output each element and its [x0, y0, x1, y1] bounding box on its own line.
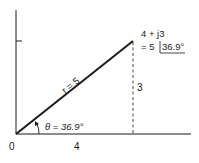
polar-form-angle: 36.9° [162, 41, 184, 52]
origin-label: 0 [9, 141, 15, 152]
polar-form-prefix: = 5 [141, 41, 154, 52]
angle-label: θ = 36.9° [45, 121, 83, 132]
magnitude-label: r = 5 [59, 75, 81, 96]
angle-arrow-icon [35, 121, 39, 126]
angle-arc [37, 124, 39, 134]
imag-part-label: 3 [137, 82, 143, 93]
phasor-diagram: 0 4 3 r = 5 θ = 36.9° 4 + j3 = 5 36.9° [0, 0, 199, 163]
rectangular-form-label: 4 + j3 [141, 28, 165, 39]
real-part-label: 4 [74, 141, 80, 152]
